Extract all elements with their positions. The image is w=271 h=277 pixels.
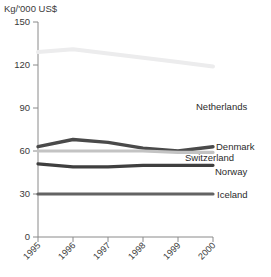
series-line-netherlands — [38, 49, 213, 66]
y-tick-label: 90 — [19, 102, 30, 113]
x-tick-label: 1998 — [126, 240, 147, 261]
x-tick-label: 2000 — [196, 240, 217, 261]
series-label-norway: Norway — [215, 166, 247, 177]
series-label-iceland: Iceland — [217, 189, 248, 200]
line-chart: Kg/'000 US$ 150 120 90 60 30 0 — [0, 0, 271, 277]
x-tick-labels: 1995 1996 1997 1998 1999 2000 — [21, 240, 217, 261]
chart-canvas: 150 120 90 60 30 0 1995 1996 1997 1998 1… — [0, 0, 271, 277]
x-tick-label: 1995 — [21, 240, 42, 261]
y-tick-label: 0 — [25, 231, 30, 242]
x-tick-marks — [38, 237, 213, 242]
y-tick-label: 150 — [14, 16, 30, 27]
series-label-switzerland: Switzerland — [185, 152, 234, 163]
x-tick-label: 1997 — [91, 240, 112, 261]
series-line-norway — [38, 164, 213, 167]
y-tick-label: 30 — [19, 188, 30, 199]
y-tick-label: 120 — [14, 59, 30, 70]
x-tick-label: 1999 — [161, 240, 182, 261]
x-tick-label: 1996 — [56, 240, 77, 261]
y-tick-label: 60 — [19, 145, 30, 156]
series-label-netherlands: Netherlands — [196, 101, 247, 112]
series-line-denmark — [38, 140, 213, 152]
series-layer — [38, 49, 213, 194]
series-label-denmark: Denmark — [216, 141, 255, 152]
y-tick-marks — [33, 22, 38, 237]
y-tick-labels: 150 120 90 60 30 0 — [14, 16, 30, 242]
